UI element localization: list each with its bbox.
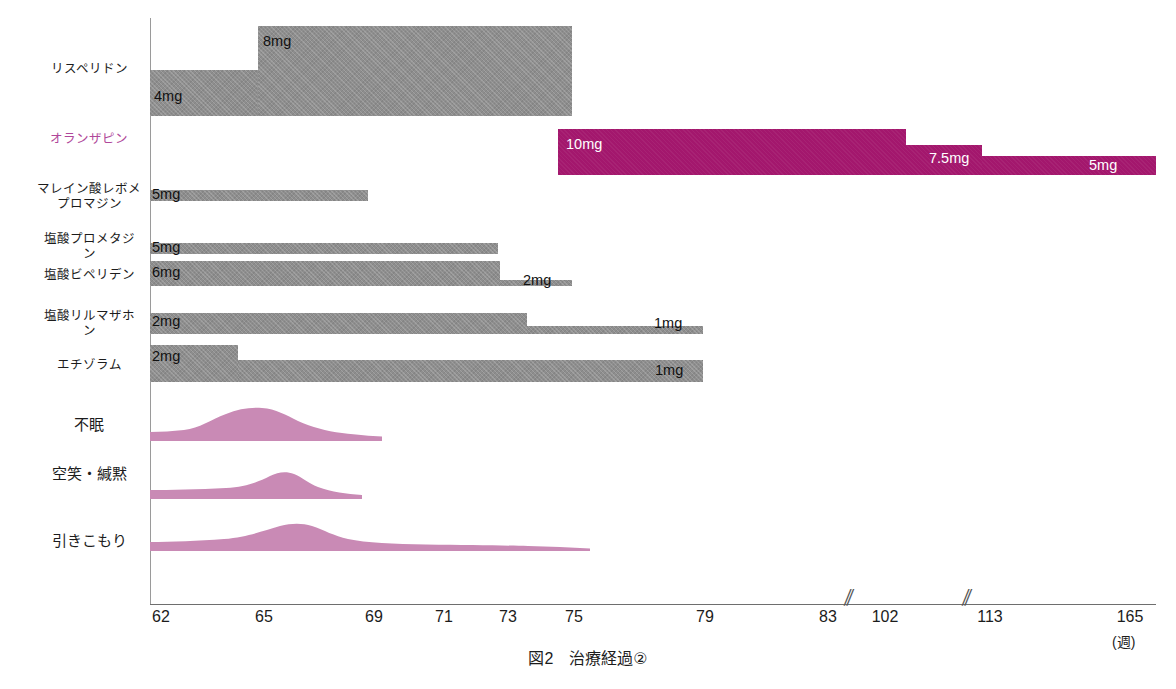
x-tick-165: 165 (1117, 608, 1144, 626)
row-label-withdrawal: 引きこもり (30, 530, 148, 552)
row-label-insomnia: 不眠 (30, 414, 148, 436)
x-tick-79: 79 (696, 608, 714, 626)
dose-label-biperiden-2mg: 2mg (523, 272, 551, 288)
x-tick-69: 69 (365, 608, 383, 626)
row-label-promethazine: 塩酸プロメタジ ン (30, 232, 148, 262)
severity-curve-silly-laughter-mutism (150, 460, 610, 506)
dose-label-olanzapine-7.5mg: 7.5mg (929, 150, 969, 166)
bar-promethazine-5mg (150, 243, 498, 254)
row-label-risperidone: リスペリドン (30, 62, 148, 77)
bar-etizolam-1mg (238, 360, 703, 382)
dose-label-risperidone-8mg: 8mg (263, 33, 291, 49)
figure-title: 図2 治療経過② (0, 645, 1176, 669)
dose-label-rilmazafone-2mg: 2mg (152, 313, 180, 329)
x-tick-73: 73 (499, 608, 517, 626)
x-tick-71: 71 (435, 608, 453, 626)
x-tick-102: 102 (872, 608, 899, 626)
x-tick-83: 83 (819, 608, 837, 626)
x-tick-113: 113 (977, 608, 1003, 626)
row-label-olanzapine: オランザピン (30, 132, 148, 147)
severity-curve-withdrawal (150, 512, 610, 562)
dose-label-levomepromazine-5mg: 5mg (152, 186, 180, 202)
bar-biperiden-6mg (150, 261, 500, 286)
dose-label-etizolam-2mg: 2mg (152, 348, 180, 364)
x-tick-62: 62 (152, 608, 170, 626)
row-label-rilmazafone: 塩酸リルマザホ ン (30, 309, 148, 339)
dose-label-risperidone-4mg: 4mg (154, 88, 182, 104)
severity-curve-insomnia (150, 398, 610, 448)
dose-label-olanzapine-5mg: 5mg (1089, 157, 1117, 173)
bar-olanzapine-5mg (982, 156, 1156, 175)
dose-label-olanzapine-10mg: 10mg (566, 136, 602, 152)
row-label-silly-laughter-mutism: 空笑・緘黙 (30, 463, 148, 485)
dose-label-rilmazafone-1mg: 1mg (654, 315, 682, 331)
bar-risperidone-8mg (258, 26, 572, 116)
x-tick-75: 75 (565, 608, 583, 626)
treatment-timeline-chart: 62 65 69 71 73 75 79 83 102 113 165 ∥ ∥ … (0, 0, 1176, 689)
dose-label-biperiden-6mg: 6mg (152, 264, 180, 280)
bar-olanzapine-10mg (558, 129, 906, 175)
row-label-biperiden: 塩酸ビペリデン (30, 268, 148, 283)
row-label-etizolam: エチゾラム (30, 358, 148, 373)
dose-label-etizolam-1mg: 1mg (655, 362, 683, 378)
x-axis-line (150, 604, 1156, 605)
dose-label-promethazine-5mg: 5mg (152, 239, 180, 255)
bar-levomepromazine-5mg (150, 190, 368, 201)
bar-rilmazafone-2mg (150, 313, 527, 334)
row-label-levomepromazine: マレイン酸レボメ プロマジン (30, 182, 148, 212)
x-tick-65: 65 (255, 608, 273, 626)
